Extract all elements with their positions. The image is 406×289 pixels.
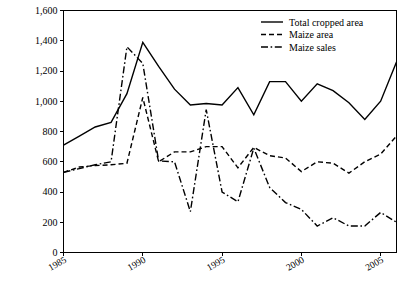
series-line-maize-sales (64, 47, 397, 226)
legend-label: Total cropped area (289, 17, 364, 28)
y-axis-ticks: 02004006008001,0001,2001,4001,600 (35, 5, 64, 258)
legend-label: Maize area (289, 29, 334, 40)
plot-frame (64, 11, 397, 253)
y-tick-label: 800 (43, 126, 58, 137)
series-line-maize-area (64, 97, 397, 173)
x-tick-label: 1990 (126, 254, 148, 272)
y-tick-label: 200 (43, 217, 58, 228)
line-chart: 02004006008001,0001,2001,4001,600 198519… (0, 0, 406, 289)
y-tick-label: 1,600 (35, 5, 58, 16)
legend-label: Maize sales (289, 42, 336, 53)
x-tick-label: 1995 (205, 254, 227, 272)
x-tick-label: 2005 (364, 254, 386, 272)
y-tick-label: 1,400 (35, 35, 58, 46)
chart-legend: Total cropped areaMaize areaMaize sales (261, 17, 364, 53)
series-lines (64, 42, 397, 226)
x-tick-label: 2000 (284, 254, 306, 272)
y-tick-label: 400 (43, 186, 58, 197)
plot-border (64, 11, 397, 253)
x-tick-label: 1985 (47, 254, 69, 272)
y-tick-label: 600 (43, 156, 58, 167)
y-tick-label: 1,200 (35, 65, 58, 76)
series-line-total-cropped-area (64, 42, 397, 145)
y-tick-label: 0 (53, 247, 58, 258)
chart-figure: 02004006008001,0001,2001,4001,600 198519… (0, 0, 406, 289)
x-axis-ticks: 19851990199520002005 (47, 253, 386, 273)
y-tick-label: 1,000 (35, 96, 58, 107)
